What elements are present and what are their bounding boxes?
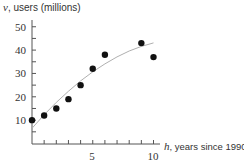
data-point — [77, 82, 83, 88]
y-tick-label-30: 30 — [15, 67, 27, 79]
y-tick-label-40: 40 — [15, 44, 27, 56]
y-tick-label-10: 10 — [15, 114, 27, 126]
data-point — [90, 66, 96, 72]
x-ticks — [44, 140, 153, 144]
data-point — [102, 52, 108, 58]
data-point — [29, 117, 35, 123]
x-tick-label-5: 5 — [89, 150, 95, 162]
data-point — [41, 112, 47, 118]
y-tick-label-50: 50 — [15, 21, 27, 33]
x-axis-title: h, years since 1990 — [164, 140, 244, 152]
axes — [32, 20, 160, 144]
data-point — [138, 40, 144, 46]
tick-labels: 10 20 30 40 50 5 10 — [15, 21, 159, 162]
data-point — [150, 54, 156, 60]
x-axis-description: , years since 1990 — [170, 141, 245, 152]
y-ticks — [32, 27, 36, 132]
fitted-curve — [32, 43, 154, 128]
data-point — [65, 96, 71, 102]
y-tick-label-20: 20 — [15, 91, 27, 103]
x-tick-label-10: 10 — [148, 150, 160, 162]
data-point — [53, 105, 59, 111]
